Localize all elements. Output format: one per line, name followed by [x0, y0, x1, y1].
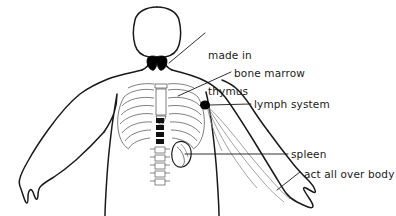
diagram-canvas [0, 0, 396, 216]
thymus-organ [147, 56, 167, 70]
label-spleen: spleen [291, 148, 327, 160]
immune-system-diagram: made in thymus bone marrow lymph system … [0, 0, 396, 216]
spine [150, 118, 170, 185]
label-made-in-thymus-line1: made in [208, 49, 252, 61]
label-act-all-over-body: act all over body [304, 168, 395, 180]
label-lymph-system: lymph system [254, 98, 330, 110]
label-bone-marrow: bone marrow [234, 67, 305, 79]
left-shoulder-and-arm-outline [19, 70, 142, 203]
leader-line-thymus [169, 33, 205, 63]
leader-line-act-all-over-body [277, 172, 300, 190]
body-outline [19, 7, 315, 216]
label-made-in-thymus-line2: thymus [208, 85, 252, 97]
left-torso-outline [104, 94, 117, 216]
